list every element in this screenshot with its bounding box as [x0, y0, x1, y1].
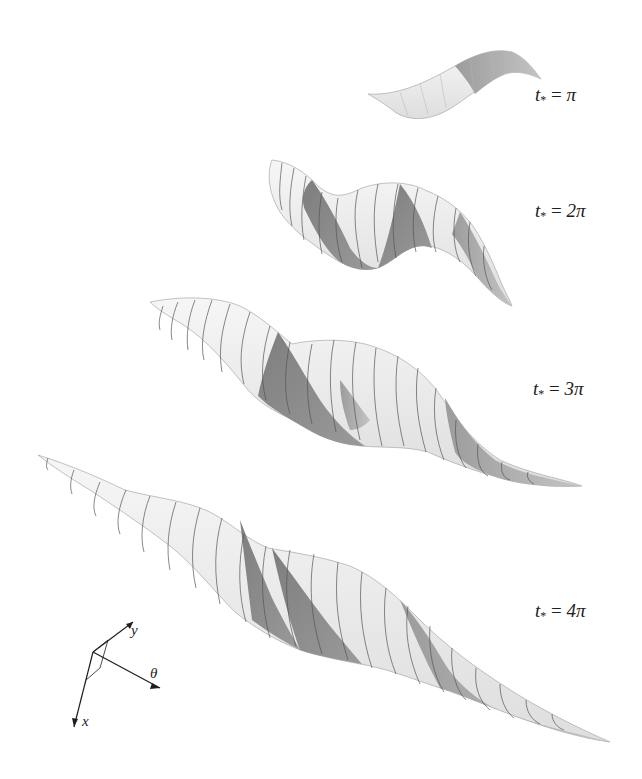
label-value: 2π	[567, 200, 586, 221]
ribbon-t-3pi	[150, 298, 582, 487]
label-t-3pi: t* = 3π	[533, 378, 584, 402]
label-t-4pi: t* = 4π	[535, 600, 586, 624]
label-equals: =	[546, 600, 566, 621]
ribbon-t-pi	[368, 51, 541, 119]
axis-label-y: y	[131, 622, 138, 639]
label-t-2pi: t* = 2π	[535, 200, 586, 224]
ribbon-t-2pi	[269, 160, 512, 306]
label-equals: =	[546, 200, 566, 221]
axis-label-x: x	[82, 713, 89, 730]
label-value: 3π	[565, 378, 584, 399]
label-equals: =	[544, 378, 564, 399]
label-value: 4π	[567, 600, 586, 621]
label-value: π	[567, 84, 577, 105]
ribbon-t-4pi	[38, 455, 610, 742]
label-equals: =	[546, 84, 566, 105]
label-t-pi: t* = π	[535, 84, 576, 108]
coordinate-axes	[72, 622, 160, 727]
axis-label-theta: θ	[150, 665, 157, 682]
